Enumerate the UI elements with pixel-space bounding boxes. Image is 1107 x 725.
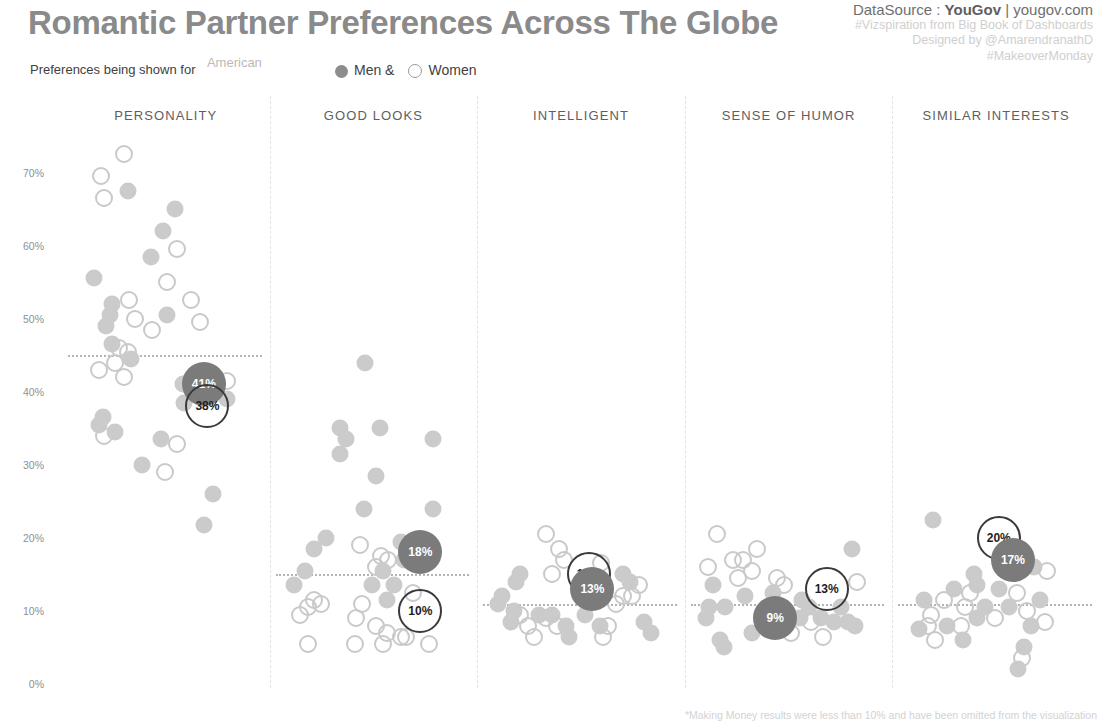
highlight-point-women[interactable]: 38% xyxy=(185,384,229,428)
data-point-men[interactable] xyxy=(155,222,172,239)
data-point-women[interactable] xyxy=(168,240,186,258)
y-axis-tick: 0% xyxy=(0,678,44,690)
data-point-men[interactable] xyxy=(305,540,322,557)
data-point-men[interactable] xyxy=(925,511,942,528)
data-point-men[interactable] xyxy=(705,577,722,594)
data-point-men[interactable] xyxy=(910,621,927,638)
data-point-men[interactable] xyxy=(424,500,441,517)
legend-item-men[interactable]: Men & xyxy=(335,62,394,78)
data-point-men[interactable] xyxy=(508,573,525,590)
data-point-men[interactable] xyxy=(969,610,986,627)
data-point-women[interactable] xyxy=(699,558,717,576)
data-point-women[interactable] xyxy=(1038,562,1056,580)
data-point-men[interactable] xyxy=(119,182,136,199)
data-point-men[interactable] xyxy=(158,307,175,324)
data-point-women[interactable] xyxy=(594,628,612,646)
data-point-men[interactable] xyxy=(715,639,732,656)
data-point-men[interactable] xyxy=(561,628,578,645)
highlight-point-men[interactable]: 9% xyxy=(753,596,797,640)
legend-item-women[interactable]: Women xyxy=(394,62,476,78)
highlight-point-men[interactable]: 13% xyxy=(570,567,614,611)
data-point-women[interactable] xyxy=(848,573,866,591)
data-point-women[interactable] xyxy=(374,635,392,653)
data-point-women[interactable] xyxy=(191,313,209,331)
data-point-women[interactable] xyxy=(814,628,832,646)
data-point-women[interactable] xyxy=(623,587,641,605)
data-point-men[interactable] xyxy=(296,562,313,579)
filter-bar: Preferences being shown for American xyxy=(30,60,262,82)
data-point-women[interactable] xyxy=(126,310,144,328)
data-point-men[interactable] xyxy=(98,317,115,334)
data-point-women[interactable] xyxy=(168,435,186,453)
data-point-men[interactable] xyxy=(371,420,388,437)
data-point-men[interactable] xyxy=(955,632,972,649)
data-point-men[interactable] xyxy=(378,591,395,608)
data-point-men[interactable] xyxy=(195,516,212,533)
data-point-men[interactable] xyxy=(939,617,956,634)
data-point-women[interactable] xyxy=(926,631,944,649)
datasource-prefix: DataSource : xyxy=(853,1,945,18)
data-point-men[interactable] xyxy=(367,467,384,484)
data-point-women[interactable] xyxy=(182,291,200,309)
highlight-point-men[interactable]: 18% xyxy=(398,530,442,574)
data-point-men[interactable] xyxy=(153,431,170,448)
data-point-men[interactable] xyxy=(375,562,392,579)
data-point-men[interactable] xyxy=(167,201,184,218)
data-point-women[interactable] xyxy=(420,635,438,653)
data-point-women[interactable] xyxy=(1036,613,1054,631)
data-point-men[interactable] xyxy=(286,577,303,594)
y-axis-tick: 60% xyxy=(0,240,44,252)
data-point-men[interactable] xyxy=(364,577,381,594)
data-point-women[interactable] xyxy=(143,321,161,339)
data-point-men[interactable] xyxy=(490,595,507,612)
data-point-women[interactable] xyxy=(158,273,176,291)
data-point-women[interactable] xyxy=(708,525,726,543)
data-point-women[interactable] xyxy=(95,189,113,207)
data-point-men[interactable] xyxy=(332,445,349,462)
data-point-men[interactable] xyxy=(717,599,734,616)
data-point-women[interactable] xyxy=(935,591,953,609)
panel-header-similar-interests: SIMILAR INTERESTS xyxy=(892,108,1100,123)
highlight-point-men[interactable]: 17% xyxy=(991,538,1035,582)
data-point-women[interactable] xyxy=(115,368,133,386)
data-point-men[interactable] xyxy=(843,540,860,557)
data-point-women[interactable] xyxy=(986,609,1004,627)
data-point-men[interactable] xyxy=(355,500,372,517)
data-point-men[interactable] xyxy=(142,248,159,265)
data-point-men[interactable] xyxy=(123,350,140,367)
data-point-men[interactable] xyxy=(85,270,102,287)
data-point-women[interactable] xyxy=(156,463,174,481)
highlight-point-women[interactable]: 13% xyxy=(805,567,849,611)
data-point-women[interactable] xyxy=(90,361,108,379)
data-point-women[interactable] xyxy=(115,145,133,163)
data-point-men[interactable] xyxy=(847,617,864,634)
data-point-women[interactable] xyxy=(346,635,364,653)
panel-divider xyxy=(892,96,893,688)
data-point-women[interactable] xyxy=(543,565,561,583)
data-point-men[interactable] xyxy=(204,486,221,503)
data-point-women[interactable] xyxy=(312,595,330,613)
data-point-women[interactable] xyxy=(347,609,365,627)
data-point-women[interactable] xyxy=(92,167,110,185)
data-point-men[interactable] xyxy=(424,431,441,448)
y-axis-tick: 20% xyxy=(0,532,44,544)
data-point-women[interactable] xyxy=(120,291,138,309)
data-point-women[interactable] xyxy=(729,569,747,587)
data-point-men[interactable] xyxy=(107,423,124,440)
data-point-men[interactable] xyxy=(502,613,519,630)
data-point-men[interactable] xyxy=(643,624,660,641)
data-point-men[interactable] xyxy=(133,456,150,473)
data-point-women[interactable] xyxy=(351,536,369,554)
data-point-men[interactable] xyxy=(697,610,714,627)
data-point-women[interactable] xyxy=(291,606,309,624)
data-point-women[interactable] xyxy=(525,628,543,646)
data-point-men[interactable] xyxy=(1001,599,1018,616)
data-point-women[interactable] xyxy=(299,635,317,653)
data-point-men[interactable] xyxy=(736,588,753,605)
data-point-men[interactable] xyxy=(357,354,374,371)
data-point-men[interactable] xyxy=(1010,661,1027,678)
y-axis-tick: 70% xyxy=(0,167,44,179)
data-point-men[interactable] xyxy=(990,581,1007,598)
nationality-filter[interactable]: American xyxy=(207,55,262,70)
highlight-point-women[interactable]: 10% xyxy=(398,589,442,633)
